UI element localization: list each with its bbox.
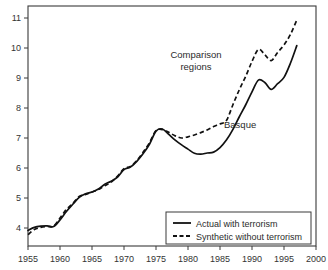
x-tick-label: 1990 xyxy=(242,254,262,264)
x-tick-label: 1955 xyxy=(18,254,38,264)
chart-legend: Actual with terrorism Synthetic without … xyxy=(166,212,311,244)
annotation-basque: Basque xyxy=(224,119,256,130)
y-tick-label: 5 xyxy=(16,193,21,203)
y-tick-label: 8 xyxy=(16,103,21,113)
series-line-actual xyxy=(28,46,297,231)
annotation-comparison-regions-line1: Comparison xyxy=(170,49,221,60)
series-line-synthetic xyxy=(28,20,297,235)
legend-label-synthetic: Synthetic without terrorism xyxy=(196,232,302,242)
x-tick-label: 1970 xyxy=(114,254,134,264)
annotation-comparison-regions-line2: regions xyxy=(180,61,211,72)
x-tick-label: 2000 xyxy=(306,254,326,264)
x-tick-label: 1975 xyxy=(146,254,166,264)
y-tick-label: 9 xyxy=(16,73,21,83)
x-tick-label: 1985 xyxy=(210,254,230,264)
line-chart: 4567891011 19551960196519701975198019851… xyxy=(0,0,328,270)
x-tick-label: 1960 xyxy=(50,254,70,264)
x-tick-label: 1965 xyxy=(82,254,102,264)
y-tick-label: 6 xyxy=(16,163,21,173)
chart-figure: 4567891011 19551960196519701975198019851… xyxy=(0,0,328,270)
plot-area-border xyxy=(28,6,316,246)
y-tick-label: 10 xyxy=(11,43,21,53)
y-tick-label: 7 xyxy=(16,133,21,143)
x-tick-label: 1995 xyxy=(274,254,294,264)
x-axis-ticks: 1955196019651970197519801985199019952000 xyxy=(18,246,326,264)
legend-label-actual: Actual with terrorism xyxy=(196,219,278,229)
y-tick-label: 4 xyxy=(16,223,21,233)
x-tick-label: 1980 xyxy=(178,254,198,264)
y-tick-label: 11 xyxy=(12,13,21,23)
y-axis-ticks: 4567891011 xyxy=(11,13,28,233)
